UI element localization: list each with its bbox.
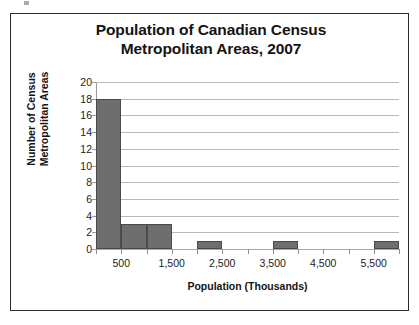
y-axis-tick-labels: 02468101214161820 xyxy=(68,82,92,249)
chart-frame: Population of Canadian Census Metropolit… xyxy=(10,13,409,311)
scan-artifact-speck xyxy=(24,1,29,5)
y-tick-label-2: 2 xyxy=(68,227,92,237)
x-tick-mark-2000 xyxy=(197,249,198,254)
y-tick-label-0: 0 xyxy=(68,244,92,254)
y-tick-label-20: 20 xyxy=(68,77,92,87)
x-tick-mark-3500 xyxy=(273,249,274,254)
chart-title-line-2: Metropolitan Areas, 2007 xyxy=(41,39,381,58)
x-tick-mark-6000 xyxy=(399,249,400,254)
bar-3500-4000 xyxy=(273,241,298,249)
y-tick-label-6: 6 xyxy=(68,194,92,204)
gridline-4 xyxy=(96,216,399,217)
y-tick-label-14: 14 xyxy=(68,127,92,137)
y-tick-label-4: 4 xyxy=(68,211,92,221)
y-axis-title: Number of Census Metropolitan Areas xyxy=(25,54,51,184)
gridline-6 xyxy=(96,199,399,200)
chart-title: Population of Canadian Census Metropolit… xyxy=(41,20,381,58)
gridline-12 xyxy=(96,149,399,150)
x-tick-label-500: 500 xyxy=(98,257,144,269)
x-tick-mark-2500 xyxy=(222,249,223,254)
plot-area xyxy=(96,82,399,249)
gridline-14 xyxy=(96,132,399,133)
x-tick-mark-3000 xyxy=(248,249,249,254)
bar-0-500 xyxy=(96,99,121,249)
x-tick-label-2500: 2,500 xyxy=(199,257,245,269)
y-tick-label-12: 12 xyxy=(68,144,92,154)
y-tick-label-8: 8 xyxy=(68,177,92,187)
x-tick-label-5500: 5,500 xyxy=(351,257,397,269)
x-tick-mark-500 xyxy=(121,249,122,254)
x-tick-mark-4000 xyxy=(298,249,299,254)
x-tick-mark-5000 xyxy=(349,249,350,254)
x-tick-mark-4500 xyxy=(323,249,324,254)
x-tick-mark-0 xyxy=(96,249,97,254)
y-tick-label-18: 18 xyxy=(68,94,92,104)
x-axis-tick-labels: 5001,5002,5003,5004,5005,500 xyxy=(96,257,399,273)
x-tick-mark-5500 xyxy=(374,249,375,254)
bar-1000-1500 xyxy=(147,224,172,249)
y-axis-title-line-2: Metropolitan Areas xyxy=(38,54,51,184)
y-axis-title-line-1: Number of Census xyxy=(25,54,38,184)
bar-2000-2500 xyxy=(197,241,222,249)
gridline-20 xyxy=(96,82,399,83)
x-tick-mark-1500 xyxy=(172,249,173,254)
gridline-10 xyxy=(96,166,399,167)
gridline-16 xyxy=(96,115,399,116)
x-tick-label-1500: 1,500 xyxy=(149,257,195,269)
x-tick-label-3500: 3,500 xyxy=(250,257,296,269)
chart-title-line-1: Population of Canadian Census xyxy=(41,20,381,39)
gridline-8 xyxy=(96,182,399,183)
x-tick-label-4500: 4,500 xyxy=(300,257,346,269)
x-axis-tick-marks xyxy=(96,249,399,255)
y-tick-label-10: 10 xyxy=(68,161,92,171)
y-tick-label-16: 16 xyxy=(68,110,92,120)
bar-500-1000 xyxy=(121,224,146,249)
gridline-18 xyxy=(96,99,399,100)
y-tick-mark-20 xyxy=(92,82,96,83)
x-axis-title: Population (Thousands) xyxy=(96,280,399,292)
x-tick-mark-1000 xyxy=(147,249,148,254)
bar-5500-6000 xyxy=(374,241,399,249)
